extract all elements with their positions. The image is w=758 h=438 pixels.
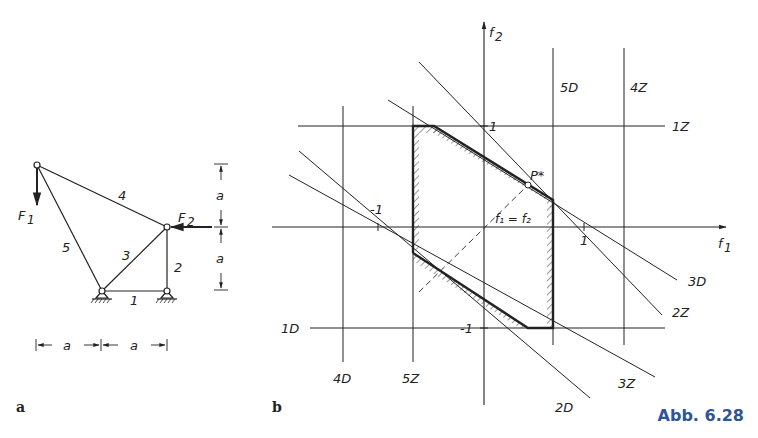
tick-f2-one: 1 xyxy=(489,119,497,134)
figure-caption: Abb. 6.28 xyxy=(658,406,744,425)
label-2Z: 2Z xyxy=(672,305,690,320)
label-3Z: 3Z xyxy=(618,376,636,391)
dim-a-upper: a xyxy=(216,188,224,203)
force-f2-sub: 2 xyxy=(187,215,195,229)
node-icon xyxy=(164,224,170,230)
label-4D: 4D xyxy=(333,371,351,386)
member-5-label: 5 xyxy=(62,240,70,255)
member-2-label: 2 xyxy=(174,260,182,275)
truss-labels: 4 5 3 2 1 F 1 F 2 a a a a a xyxy=(16,188,224,415)
dim-a-right: a xyxy=(130,338,138,353)
label-1D: 1D xyxy=(281,321,299,336)
diagonal-label: f₁ = f₂ xyxy=(495,212,531,226)
f2-axis-sub: 2 xyxy=(495,30,503,44)
tick-f1-one: 1 xyxy=(580,233,588,248)
label-4Z: 4Z xyxy=(630,80,648,95)
panel-a-label: a xyxy=(16,399,25,415)
node-icon xyxy=(164,288,170,294)
dim-a-left: a xyxy=(63,338,71,353)
panel-b-label: b xyxy=(272,399,282,415)
label-1Z: 1Z xyxy=(672,119,690,134)
tick-f1-minus-one: -1 xyxy=(370,202,383,217)
member-4-label: 4 xyxy=(118,188,126,203)
node-icon xyxy=(99,288,105,294)
label-5Z: 5Z xyxy=(402,371,420,386)
label-5D: 5D xyxy=(560,80,578,95)
tick-f2-minus-one: -1 xyxy=(460,321,473,336)
label-2D: 2D xyxy=(555,400,573,415)
node-icon xyxy=(34,162,40,168)
force-f2-label: F xyxy=(178,210,186,225)
figure-canvas: 4 5 3 2 1 F 1 F 2 a a a a a xyxy=(0,0,758,438)
truss-diagram xyxy=(34,162,228,351)
member-4 xyxy=(37,165,167,227)
member-1-label: 1 xyxy=(130,293,138,308)
dim-a-lower: a xyxy=(216,251,224,266)
label-3D: 3D xyxy=(688,274,706,289)
member-3-label: 3 xyxy=(122,248,130,263)
force-f1-label: F xyxy=(18,208,26,223)
optimum-point-label: P* xyxy=(530,168,545,183)
force-f1-sub: 1 xyxy=(27,213,35,227)
member-3 xyxy=(102,227,167,291)
vertical-dimension xyxy=(214,164,228,290)
horizontal-dimension xyxy=(36,339,167,351)
f1-axis-sub: 1 xyxy=(724,241,732,255)
plot-labels: f 2 f 1 1 1 -1 -1 5D 4Z 1Z 1D 4D 5Z 3D 2… xyxy=(272,25,732,415)
member-5 xyxy=(37,165,102,291)
